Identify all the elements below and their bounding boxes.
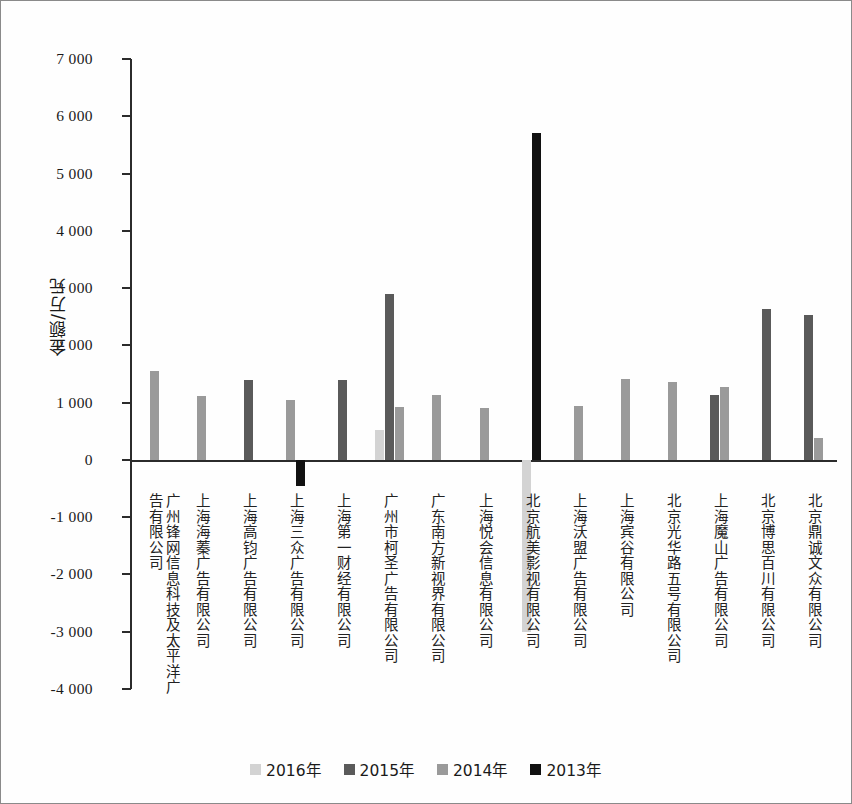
- bar: [244, 380, 253, 460]
- bar: [532, 133, 541, 459]
- category-label: 北京光华路五号有限公司: [663, 493, 680, 664]
- bar: [804, 315, 813, 460]
- legend-item[interactable]: 2015年: [344, 758, 415, 780]
- category-label: 上海悦会信息有限公司: [475, 493, 492, 648]
- category-label: 上海魔山广告有限公司: [710, 493, 727, 648]
- category-label: 上海第一财经有限公司: [334, 493, 351, 648]
- legend-swatch-icon: [530, 764, 541, 775]
- category-label: 广东南方新视界有限公司: [428, 493, 445, 664]
- bar: [720, 387, 729, 460]
- y-tick-label: -2 000: [51, 566, 93, 582]
- bar: [197, 396, 206, 460]
- bar: [385, 294, 394, 460]
- legend-item[interactable]: 2013年: [530, 758, 601, 780]
- y-tick: [122, 344, 131, 346]
- y-tick: [122, 402, 131, 404]
- bar: [668, 382, 677, 460]
- legend-label: 2013年: [546, 758, 601, 780]
- bar: [375, 430, 384, 460]
- bar: [621, 379, 630, 460]
- y-tick: [122, 230, 131, 232]
- legend-swatch-icon: [344, 764, 355, 775]
- legend-label: 2016年: [266, 758, 321, 780]
- y-tick: [122, 631, 131, 633]
- y-tick-label: 1 000: [56, 395, 93, 411]
- y-tick: [122, 58, 131, 60]
- category-label: 北京航美影视有限公司: [522, 493, 539, 648]
- legend-label: 2014年: [453, 758, 508, 780]
- y-tick-label: 4 000: [56, 223, 93, 239]
- zero-baseline: [130, 460, 837, 462]
- bar: [150, 371, 159, 460]
- bar: [574, 406, 583, 460]
- y-tick-label: 5 000: [56, 166, 93, 182]
- bar: [814, 438, 823, 460]
- category-label: 上海高钧广告有限公司: [240, 493, 257, 648]
- y-tick: [122, 459, 131, 461]
- legend-swatch-icon: [250, 764, 261, 775]
- bar: [480, 408, 489, 460]
- y-tick-label: -4 000: [51, 681, 93, 697]
- category-label: 上海三众广告有限公司: [287, 493, 304, 648]
- bar: [395, 407, 404, 460]
- y-tick: [122, 573, 131, 575]
- y-axis-tick-labels: 7 0006 0005 0004 0003 0002 0001 0000-1 0…: [0, 59, 93, 689]
- bar: [432, 395, 441, 460]
- legend-swatch-icon: [437, 764, 448, 775]
- y-tick: [122, 115, 131, 117]
- y-tick: [122, 516, 131, 518]
- legend-item[interactable]: 2014年: [437, 758, 508, 780]
- legend-item[interactable]: 2016年: [250, 758, 321, 780]
- x-axis-category-labels: 广州锋网信息科技及太平洋广 告有限公司上海海蓁广告有限公司上海高钧广告有限公司上…: [131, 493, 837, 733]
- category-label: 北京鼎诚文众有限公司: [804, 493, 821, 648]
- legend-label: 2015年: [360, 758, 415, 780]
- y-tick: [122, 173, 131, 175]
- chart-frame: 金额/万元 7 0006 0005 0004 0003 0002 0001 00…: [0, 0, 852, 804]
- y-tick-label: -1 000: [51, 509, 93, 525]
- category-label: 广州锋网信息科技及太平洋广 告有限公司: [146, 493, 180, 695]
- y-tick: [122, 688, 131, 690]
- y-tick-label: 6 000: [56, 108, 93, 124]
- bar: [286, 400, 295, 460]
- category-label: 上海宾谷有限公司: [616, 493, 633, 617]
- bar: [296, 460, 305, 486]
- category-label: 北京博思百川有限公司: [757, 493, 774, 648]
- chart-legend: 2016年2015年2014年2013年: [1, 758, 851, 780]
- y-tick-label: 3 000: [56, 280, 93, 296]
- bar: [762, 309, 771, 460]
- y-tick: [122, 287, 131, 289]
- bar: [710, 395, 719, 460]
- category-label: 上海沃盟广告有限公司: [569, 493, 586, 648]
- bar: [338, 380, 347, 460]
- y-tick-label: -3 000: [51, 624, 93, 640]
- y-tick-label: 7 000: [56, 51, 93, 67]
- y-tick-label: 2 000: [56, 337, 93, 353]
- category-label: 广州市柯圣广告有限公司: [381, 493, 398, 664]
- y-tick-label: 0: [85, 452, 93, 468]
- category-label: 上海海蓁广告有限公司: [193, 493, 210, 648]
